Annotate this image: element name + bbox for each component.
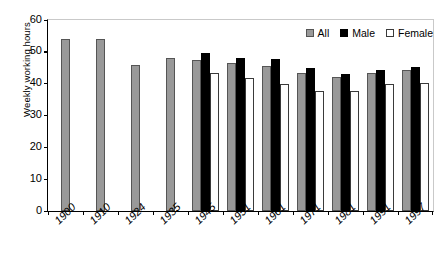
bar-1951-male — [236, 58, 245, 211]
bar-1991-all — [367, 73, 376, 211]
bar-1981-male — [341, 74, 350, 211]
bar-group — [258, 20, 293, 211]
bar-1935-all — [166, 58, 175, 211]
x-tick-mark — [363, 211, 364, 215]
x-tick-mark — [188, 211, 189, 215]
y-tick-label: 50 — [30, 44, 42, 56]
legend-item-male[interactable]: Male — [340, 27, 375, 39]
y-tick-label: 0 — [36, 204, 42, 216]
legend-label: Female — [398, 27, 433, 39]
bar-1997-female — [420, 83, 429, 211]
bar-1900-all — [61, 39, 70, 211]
bar-group — [363, 20, 398, 211]
y-tick-label: 20 — [30, 140, 42, 152]
bar-1951-all — [227, 63, 236, 211]
bar-group — [223, 20, 258, 211]
bar-1945-female — [210, 73, 219, 211]
x-tick-mark — [83, 211, 84, 215]
y-tick-label: 40 — [30, 76, 42, 88]
chart-legend: AllMaleFemale — [306, 27, 433, 39]
bar-1924-all — [131, 65, 140, 211]
bar-1961-female — [280, 84, 289, 211]
legend-label: All — [318, 27, 330, 39]
bar-1971-all — [297, 73, 306, 211]
bar-group — [328, 20, 363, 211]
x-tick-mark — [223, 211, 224, 215]
y-tick-label: 30 — [30, 108, 42, 120]
legend-swatch-male-icon — [340, 29, 348, 37]
legend-label: Male — [352, 27, 375, 39]
legend-swatch-all-icon — [306, 29, 314, 37]
bar-group — [48, 20, 83, 211]
bar-1991-female — [385, 84, 394, 211]
bar-chart: Weekly working hours 0102030405060 AllMa… — [0, 0, 445, 254]
bar-group — [118, 20, 153, 211]
bar-1951-female — [245, 78, 254, 211]
bar-1981-female — [350, 91, 359, 211]
bar-1997-all — [402, 70, 411, 211]
bar-1997-male — [411, 67, 420, 211]
bar-1910-all — [96, 39, 105, 211]
x-tick-mark — [153, 211, 154, 215]
bar-1981-all — [332, 77, 341, 211]
x-tick-mark — [48, 211, 49, 215]
y-tick-label: 10 — [30, 172, 42, 184]
plot-area: 0102030405060 — [47, 19, 434, 212]
bar-group — [398, 20, 433, 211]
legend-item-all[interactable]: All — [306, 27, 330, 39]
bar-1991-male — [376, 70, 385, 211]
x-tick-mark — [432, 211, 433, 215]
x-tick-mark — [118, 211, 119, 215]
bar-1961-male — [271, 59, 280, 211]
y-tick-label: 60 — [30, 13, 42, 25]
bar-1961-all — [262, 66, 271, 211]
bar-1971-female — [315, 91, 324, 211]
x-tick-mark — [258, 211, 259, 215]
legend-swatch-female-icon — [386, 29, 394, 37]
bar-group — [83, 20, 118, 211]
x-tick-mark — [328, 211, 329, 215]
bar-1945-all — [192, 60, 201, 211]
bar-group — [188, 20, 223, 211]
bar-group — [153, 20, 188, 211]
x-tick-mark — [293, 211, 294, 215]
bar-1945-male — [201, 53, 210, 211]
x-tick-mark — [398, 211, 399, 215]
bar-1971-male — [306, 68, 315, 211]
bar-group — [293, 20, 328, 211]
legend-item-female[interactable]: Female — [386, 27, 433, 39]
